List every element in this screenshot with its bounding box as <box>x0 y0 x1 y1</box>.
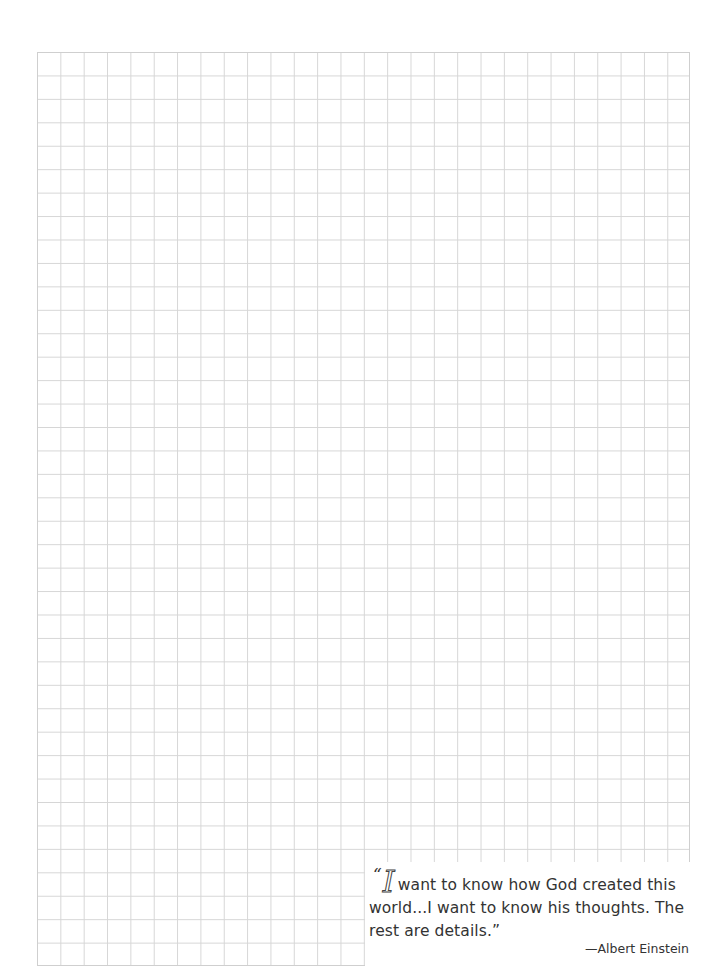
quote-line-1: want to know how God created this <box>398 876 676 894</box>
quote-text: “Iwant to know how God created this worl… <box>369 870 699 943</box>
quote-line-3: rest are details.” <box>369 922 500 940</box>
decorative-initial: I <box>383 864 395 899</box>
open-quote-mark: “ <box>373 864 382 884</box>
quote-box: “Iwant to know how God created this worl… <box>365 862 727 979</box>
graph-grid <box>37 52 690 966</box>
quote-line-2: world...I want to know his thoughts. The <box>369 899 684 917</box>
quote-attribution: —Albert Einstein <box>585 941 689 956</box>
graph-paper-page: “Iwant to know how God created this worl… <box>0 0 727 979</box>
